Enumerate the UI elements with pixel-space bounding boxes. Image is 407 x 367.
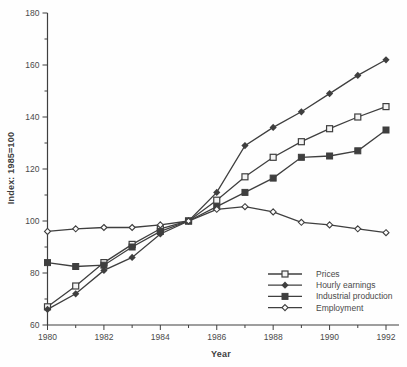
y-axis-label: Index: 1985=100	[6, 93, 16, 243]
y-tick-label: 180	[25, 8, 39, 18]
legend-marker-hourly-earnings	[281, 282, 288, 289]
series-marker-hourly-earnings	[326, 90, 333, 97]
series-marker-hourly-earnings	[241, 142, 248, 149]
series-marker-employment	[298, 219, 304, 225]
legend-label-prices: Prices	[316, 269, 340, 279]
legend-marker-prices	[282, 271, 288, 277]
series-marker-hourly-earnings	[270, 124, 277, 131]
series-marker-prices	[383, 104, 389, 110]
series-marker-prices	[327, 126, 333, 132]
series-marker-employment	[355, 226, 361, 232]
x-axis-label: Year	[36, 349, 406, 359]
legend-marker-employment	[282, 305, 288, 311]
series-marker-industrial-production	[45, 260, 51, 266]
series-marker-employment	[129, 225, 135, 231]
y-tick-label: 60	[30, 320, 40, 330]
series-marker-employment	[242, 204, 248, 210]
series-marker-employment	[270, 209, 276, 215]
series-marker-employment	[383, 230, 389, 236]
series-marker-prices	[355, 114, 361, 120]
series-marker-employment	[101, 225, 107, 231]
series-marker-employment	[327, 222, 333, 228]
series-marker-industrial-production	[327, 153, 333, 159]
series-marker-industrial-production	[383, 127, 389, 133]
y-tick-label: 100	[25, 216, 39, 226]
series-marker-industrial-production	[101, 262, 107, 268]
series-marker-prices	[214, 197, 220, 203]
y-tick-label: 120	[25, 164, 39, 174]
series-marker-hourly-earnings	[298, 108, 305, 115]
legend-label-employment: Employment	[316, 303, 364, 313]
series-marker-industrial-production	[355, 148, 361, 154]
series-marker-industrial-production	[129, 244, 135, 250]
x-tick-label: 1988	[264, 332, 283, 342]
x-tick-label: 1984	[151, 332, 170, 342]
series-marker-industrial-production	[73, 264, 79, 270]
x-tick-label: 1986	[207, 332, 226, 342]
series-marker-prices	[242, 174, 248, 180]
line-chart-canvas: 6080100120140160180198019821984198619881…	[0, 0, 407, 367]
x-tick-label: 1980	[38, 332, 57, 342]
series-marker-employment	[73, 226, 79, 232]
legend-label-industrial-production: Industrial production	[316, 291, 393, 301]
series-marker-employment	[45, 228, 51, 234]
series-marker-prices	[298, 139, 304, 145]
series-marker-hourly-earnings	[382, 56, 389, 63]
y-tick-label: 140	[25, 112, 39, 122]
series-marker-prices	[73, 283, 79, 289]
series-marker-industrial-production	[242, 189, 248, 195]
series-marker-industrial-production	[298, 154, 304, 160]
series-marker-prices	[270, 154, 276, 160]
x-tick-label: 1982	[94, 332, 113, 342]
x-tick-label: 1990	[320, 332, 339, 342]
legend-label-hourly-earnings: Hourly earnings	[316, 280, 376, 290]
series-marker-hourly-earnings	[354, 72, 361, 79]
x-tick-label: 1992	[377, 332, 396, 342]
y-tick-label: 160	[25, 60, 39, 70]
series-marker-industrial-production	[270, 175, 276, 181]
y-tick-label: 80	[30, 268, 40, 278]
legend-marker-industrial-production	[282, 293, 288, 299]
series-marker-industrial-production	[157, 228, 163, 234]
chart-figure: Index: 1985=100 608010012014016018019801…	[0, 0, 407, 367]
